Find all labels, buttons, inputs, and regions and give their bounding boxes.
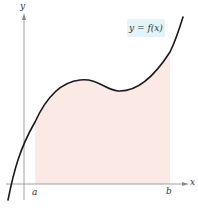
interval-right-label-b: b [166,187,172,196]
curve-label: y = f(x) [127,19,165,37]
shaded-area-region [35,52,170,184]
curve-label-text: y = f(x) [129,23,163,33]
interval-left-label-a: a [32,188,37,197]
y-axis-arrow-icon [22,13,26,20]
diagram-canvas [0,0,198,210]
x-axis-label: x [190,178,195,187]
area-under-curve-figure: y x a b y = f(x) [0,0,198,210]
x-axis-arrow-icon [182,182,189,186]
y-axis-label: y [20,2,25,11]
